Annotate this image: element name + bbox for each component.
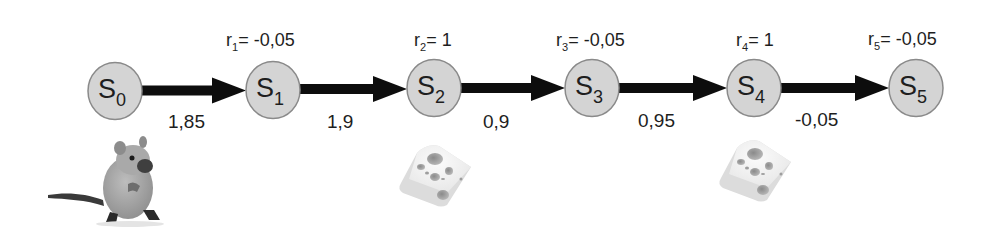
transition-value: 0,95 (638, 110, 675, 131)
reward-labels: r1= -0,05r2= 1r3= -0,05r4= 1r5= -0,05 (226, 29, 937, 53)
transition-value: -0,05 (795, 109, 838, 130)
state-node-s3: S3 (565, 60, 619, 117)
transition-arrow (619, 75, 727, 101)
transition-arrow (461, 75, 565, 101)
mouse-icon (48, 136, 164, 227)
transition-value: 0,9 (483, 111, 509, 132)
transition-arrow (142, 78, 246, 104)
transition-arrow (781, 75, 889, 101)
cheese-icon (719, 140, 791, 201)
state-node-s1: S1 (246, 62, 300, 119)
state-node-s0: S0 (88, 63, 142, 120)
reward-label-s4: r4= 1 (736, 30, 774, 53)
transition-value: 1,85 (168, 111, 205, 132)
cheese-icon (399, 145, 471, 206)
reward-label-s5: r5= -0,05 (868, 29, 937, 52)
reward-label-s3: r3= -0,05 (556, 30, 625, 53)
reward-label-s1: r1= -0,05 (226, 30, 295, 53)
state-node-s2: S2 (407, 60, 461, 117)
reward-label-s2: r2= 1 (414, 30, 452, 53)
state-node-s5: S5 (889, 60, 943, 117)
transition-value: 1,9 (327, 111, 353, 132)
state-node-s4: S4 (727, 60, 781, 117)
transition-arrow (300, 76, 407, 102)
markov-chain-diagram: S0S1S2S3S4S5 r1= -0,05r2= 1r3= -0,05r4= … (0, 0, 986, 236)
